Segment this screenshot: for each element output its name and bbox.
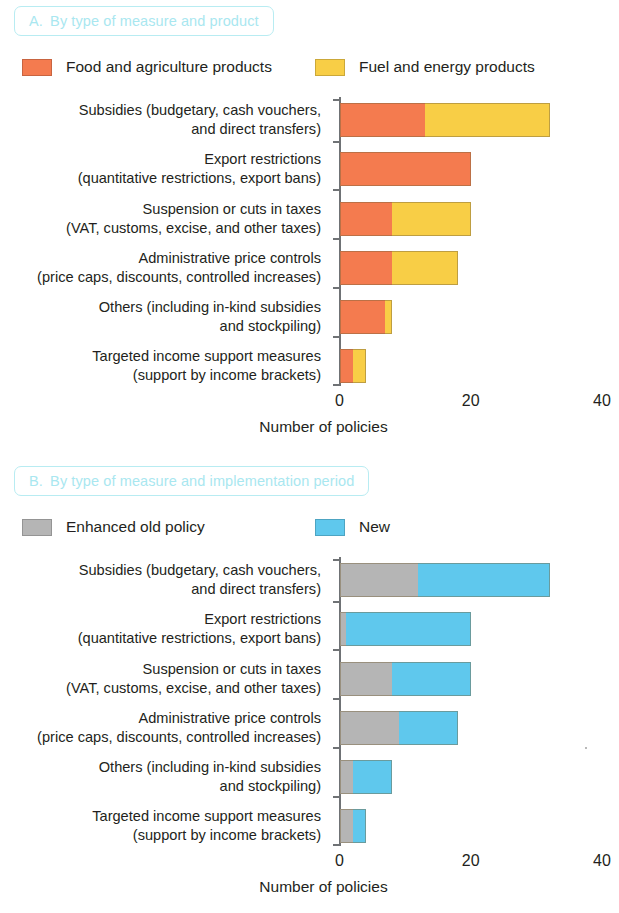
stacked-bar[interactable] xyxy=(340,711,458,745)
category-label: Subsidies (budgetary, cash vouchers,and … xyxy=(0,561,330,598)
bar-segment[interactable] xyxy=(340,711,399,745)
y-axis-tick xyxy=(333,649,340,651)
bar-row: Administrative price controls(price caps… xyxy=(0,249,619,286)
bar-segment[interactable] xyxy=(340,103,425,137)
bar-row: Export restrictions(quantitative restric… xyxy=(0,150,619,187)
scan-artifact xyxy=(585,747,587,749)
bar-segment[interactable] xyxy=(340,349,353,383)
bar-segment[interactable] xyxy=(346,612,471,646)
y-axis-tick xyxy=(333,141,340,143)
y-axis-tick xyxy=(333,844,340,846)
category-label: Subsidies (budgetary, cash vouchers,and … xyxy=(0,101,330,138)
panel-b-legend: Enhanced old policy New xyxy=(0,515,619,539)
bar-segment[interactable] xyxy=(340,563,419,597)
legend-label: Food and agriculture products xyxy=(66,58,272,76)
bar-segment[interactable] xyxy=(340,251,393,285)
bar-segment[interactable] xyxy=(340,202,393,236)
bar-row: Targeted income support measures(support… xyxy=(0,347,619,384)
bar-track xyxy=(340,711,619,745)
bar-track xyxy=(340,251,619,285)
legend-item-food-and-agriculture: Food and agriculture products xyxy=(22,55,272,79)
x-axis-tick-label: 20 xyxy=(462,852,480,870)
bar-row: Targeted income support measures(support… xyxy=(0,807,619,844)
bar-segment[interactable] xyxy=(340,760,353,794)
x-axis-title: Number of policies xyxy=(0,418,619,436)
bar-track xyxy=(340,202,619,236)
category-label: Export restrictions(quantitative restric… xyxy=(0,610,330,647)
bar-row: Administrative price controls(price caps… xyxy=(0,709,619,746)
bar-track xyxy=(340,349,619,383)
y-axis-tick xyxy=(333,747,340,749)
x-axis-tick-label: 0 xyxy=(335,852,344,870)
stacked-bar[interactable] xyxy=(340,612,471,646)
bar-row: Others (including in-kind subsidiesand s… xyxy=(0,298,619,335)
bar-segment[interactable] xyxy=(340,662,393,696)
stacked-bar[interactable] xyxy=(340,809,366,843)
stacked-bar[interactable] xyxy=(340,202,471,236)
legend-swatch-icon xyxy=(315,59,345,76)
bar-segment[interactable] xyxy=(392,662,471,696)
category-label: Others (including in-kind subsidiesand s… xyxy=(0,758,330,795)
category-label: Administrative price controls(price caps… xyxy=(0,249,330,286)
bar-row: Suspension or cuts in taxes(VAT, customs… xyxy=(0,660,619,697)
stacked-bar[interactable] xyxy=(340,563,550,597)
panel-a-legend: Food and agriculture products Fuel and e… xyxy=(0,55,619,79)
bar-row: Subsidies (budgetary, cash vouchers,and … xyxy=(0,561,619,598)
bar-track xyxy=(340,612,619,646)
x-axis-title: Number of policies xyxy=(0,878,619,896)
bar-segment[interactable] xyxy=(353,809,366,843)
stacked-bar[interactable] xyxy=(340,662,471,696)
bar-track xyxy=(340,103,619,137)
bar-segment[interactable] xyxy=(340,809,353,843)
category-label: Suspension or cuts in taxes(VAT, customs… xyxy=(0,200,330,237)
bar-track xyxy=(340,809,619,843)
y-axis-tick xyxy=(333,698,340,700)
stacked-bar[interactable] xyxy=(340,152,471,186)
panel-a-letter: A. xyxy=(29,13,43,29)
bar-segment[interactable] xyxy=(392,202,471,236)
y-axis-tick xyxy=(333,384,340,386)
category-label: Others (including in-kind subsidiesand s… xyxy=(0,298,330,335)
bar-segment[interactable] xyxy=(392,251,458,285)
bar-segment[interactable] xyxy=(425,103,550,137)
y-axis-tick xyxy=(333,796,340,798)
bar-segment[interactable] xyxy=(353,760,392,794)
legend-label: New xyxy=(359,518,390,536)
category-label: Administrative price controls(price caps… xyxy=(0,709,330,746)
stacked-bar[interactable] xyxy=(340,251,458,285)
bar-segment[interactable] xyxy=(418,563,549,597)
panel-b-x-axis: 02040 Number of policies xyxy=(0,852,619,898)
bar-segment[interactable] xyxy=(353,349,366,383)
bar-segment[interactable] xyxy=(340,152,471,186)
category-label: Targeted income support measures(support… xyxy=(0,807,330,844)
bar-segment[interactable] xyxy=(399,711,458,745)
panel-a-title-box: A. By type of measure and product xyxy=(14,6,274,36)
stacked-bar[interactable] xyxy=(340,103,550,137)
bar-segment[interactable] xyxy=(340,300,386,334)
bar-segment[interactable] xyxy=(385,300,392,334)
stacked-bar[interactable] xyxy=(340,300,393,334)
legend-swatch-icon xyxy=(22,59,52,76)
bar-track xyxy=(340,760,619,794)
panel-b-letter: B. xyxy=(29,473,43,489)
panel-a-x-axis: 02040 Number of policies xyxy=(0,392,619,438)
legend-label: Enhanced old policy xyxy=(66,518,205,536)
y-axis-tick xyxy=(333,189,340,191)
x-axis-tick-label: 0 xyxy=(335,392,344,410)
stacked-bar[interactable] xyxy=(340,349,366,383)
x-axis-tick-label: 40 xyxy=(593,852,611,870)
legend-swatch-icon xyxy=(315,519,345,536)
stacked-bar[interactable] xyxy=(340,760,393,794)
y-axis-tick xyxy=(333,601,340,603)
x-axis-tick-label: 40 xyxy=(593,392,611,410)
x-axis-tick-label: 20 xyxy=(462,392,480,410)
y-axis-tick xyxy=(333,238,340,240)
legend-swatch-icon xyxy=(22,519,52,536)
y-axis-tick xyxy=(333,287,340,289)
bar-row: Export restrictions(quantitative restric… xyxy=(0,610,619,647)
bar-track xyxy=(340,300,619,334)
category-label: Suspension or cuts in taxes(VAT, customs… xyxy=(0,660,330,697)
bar-row: Subsidies (budgetary, cash vouchers,and … xyxy=(0,101,619,138)
y-axis-tick xyxy=(333,336,340,338)
panel-a-title: By type of measure and product xyxy=(50,13,259,29)
